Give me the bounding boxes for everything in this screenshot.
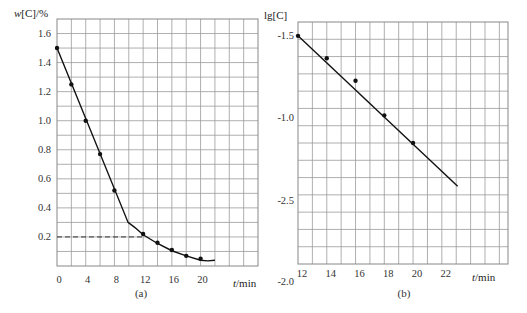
y-tick-label: 0.2: [38, 231, 51, 242]
chart-a: 0.20.40.60.81.01.21.41.6 048121620 w[C]/…: [14, 7, 258, 300]
chart-b-caption: (b): [398, 287, 411, 300]
chart-b-x-axis-label: t/min: [472, 271, 496, 283]
x-tick-label: 0: [56, 274, 61, 285]
y-tick-label: 0.6: [38, 173, 51, 184]
data-point: [382, 113, 386, 117]
chart-b-x-ticks: 121416182022: [297, 268, 451, 279]
chart-b-grid: [298, 22, 508, 264]
x-tick-label: 20: [412, 268, 423, 279]
chart-b-fit-line: [298, 36, 458, 186]
y-tick-label: 1.2: [38, 86, 51, 97]
y-tick-label: -1.0: [277, 112, 294, 123]
y-tick-label: -2.5: [277, 195, 294, 206]
data-point: [84, 119, 88, 123]
chart-b-y-axis-label: lg[C]: [264, 9, 287, 21]
y-tick-label: -1.5: [277, 30, 294, 41]
data-point: [69, 82, 73, 86]
y-tick-label: 0.4: [38, 202, 52, 213]
chart-b-y-ticks: -1.5-1.0-2.5-2.0: [277, 30, 294, 286]
x-tick-label: 12: [297, 268, 308, 279]
data-point: [55, 46, 59, 50]
data-point: [411, 141, 415, 145]
x-tick-label: 8: [114, 274, 119, 285]
data-point: [155, 241, 159, 245]
chart-a-x-ticks: 048121620: [56, 274, 207, 285]
x-tick-label: 16: [354, 268, 365, 279]
chart-a-grid: [57, 19, 258, 266]
data-point: [170, 248, 174, 252]
y-tick-label: -2.0: [277, 276, 294, 287]
data-point: [98, 152, 102, 156]
chart-a-y-ticks: 0.20.40.60.81.01.21.41.6: [38, 28, 52, 242]
data-point: [141, 232, 145, 236]
x-tick-label: 20: [197, 274, 208, 285]
chart-a-y-axis-label: w[C]/%: [14, 7, 48, 19]
y-tick-label: 0.8: [38, 144, 51, 155]
x-tick-label: 12: [140, 274, 151, 285]
data-point: [296, 34, 300, 38]
x-tick-label: 16: [169, 274, 180, 285]
y-tick-label: 1.6: [38, 28, 51, 39]
chart-canvas: 0.20.40.60.81.01.21.41.6 048121620 w[C]/…: [0, 0, 527, 313]
x-tick-label: 4: [85, 274, 91, 285]
x-tick-label: 14: [326, 268, 337, 279]
chart-b: -1.5-1.0-2.5-2.0 121416182022 lg[C] t/mi…: [264, 9, 508, 300]
x-tick-label: 22: [441, 268, 452, 279]
data-point: [112, 188, 116, 192]
x-tick-label: 18: [383, 268, 394, 279]
chart-a-curve: [57, 48, 215, 261]
chart-a-x-axis-label: t/min: [233, 277, 257, 289]
data-point: [353, 79, 357, 83]
y-tick-label: 1.4: [38, 57, 52, 68]
y-tick-label: 1.0: [38, 115, 51, 126]
data-point: [198, 257, 202, 261]
data-point: [184, 254, 188, 258]
chart-a-caption: (a): [135, 287, 148, 300]
data-point: [325, 56, 329, 60]
